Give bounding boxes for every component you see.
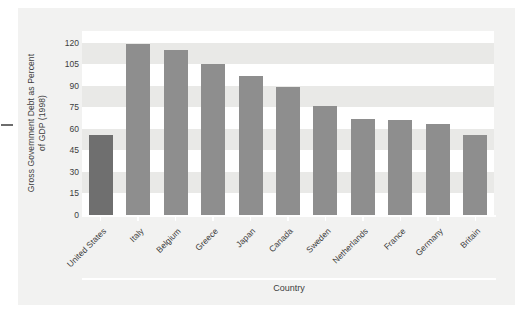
bar-cell (194, 31, 231, 215)
bar[interactable] (201, 64, 225, 215)
bar-cell (307, 31, 344, 215)
bar-cell (119, 31, 156, 215)
bar[interactable] (313, 106, 337, 215)
x-tick-mark (437, 217, 439, 221)
x-axis-tick-label: Germany (413, 226, 445, 258)
y-axis-tick-label: 75 (70, 102, 79, 112)
x-axis-tick-label: Sweden (304, 226, 333, 255)
y-axis-tick-label: 15 (70, 188, 79, 198)
y-axis-tick-label: 90 (70, 81, 79, 91)
bar[interactable] (164, 50, 188, 215)
x-axis-title: Country (82, 283, 496, 293)
y-axis-tick-labels: 0153045607590105120 (52, 31, 79, 215)
bar-cell (457, 31, 494, 215)
x-tick-mark (250, 217, 252, 221)
bar-cell (419, 31, 456, 215)
edge-tick-mark (1, 124, 13, 126)
x-tick-mark (362, 217, 364, 221)
x-tick-mark (137, 217, 139, 221)
y-axis-title-line-2: of GDP (1998) (37, 54, 48, 192)
bar[interactable] (126, 44, 150, 215)
bar-cell (344, 31, 381, 215)
y-axis-tick-label: 60 (70, 124, 79, 134)
bar-cell (269, 31, 306, 215)
bar-cell (232, 31, 269, 215)
bar[interactable] (239, 76, 263, 215)
x-axis-tick-label: France (382, 226, 408, 252)
x-tick-mark (100, 217, 102, 221)
bar[interactable] (426, 124, 450, 215)
x-axis-tick-labels: United StatesItalyBelgiumGreeceJapanCana… (82, 222, 494, 270)
bar-cell (82, 31, 119, 215)
bar[interactable] (388, 120, 412, 215)
bar[interactable] (89, 135, 113, 216)
y-axis-tick-label: 30 (70, 167, 79, 177)
x-axis-tick-label: Netherlands (330, 226, 369, 265)
x-axis-tick-label: Canada (267, 226, 295, 254)
x-axis-tick-label: Belgium (154, 226, 183, 255)
y-axis-tick-label: 105 (65, 59, 79, 69)
x-axis-tick-label: Greece (193, 226, 220, 253)
bar[interactable] (276, 87, 300, 215)
y-axis-tick-label: 0 (74, 210, 79, 220)
bar-series (82, 31, 494, 215)
y-axis-title-line-1: Gross Government Debt as Percent (26, 54, 36, 192)
x-axis-title-rule (82, 278, 496, 280)
x-axis-tick-label: Japan (234, 226, 257, 249)
bar-cell (382, 31, 419, 215)
x-tick-mark (400, 217, 402, 221)
x-tick-mark (475, 217, 477, 221)
bar[interactable] (463, 135, 487, 216)
x-tick-mark (175, 217, 177, 221)
x-axis-tick-label: Britain (458, 226, 482, 250)
plot-area (82, 31, 494, 215)
y-axis-title: Gross Government Debt as Percent of GDP … (20, 28, 54, 218)
chart-figure: Gross Government Debt as Percent of GDP … (0, 0, 523, 313)
y-axis-tick-label: 120 (65, 38, 79, 48)
x-tick-mark (325, 217, 327, 221)
x-axis-tick-label: Italy (127, 226, 145, 244)
x-tick-mark (287, 217, 289, 221)
bar[interactable] (351, 119, 375, 215)
y-axis-tick-label: 45 (70, 145, 79, 155)
x-tick-mark (212, 217, 214, 221)
bar-cell (157, 31, 194, 215)
